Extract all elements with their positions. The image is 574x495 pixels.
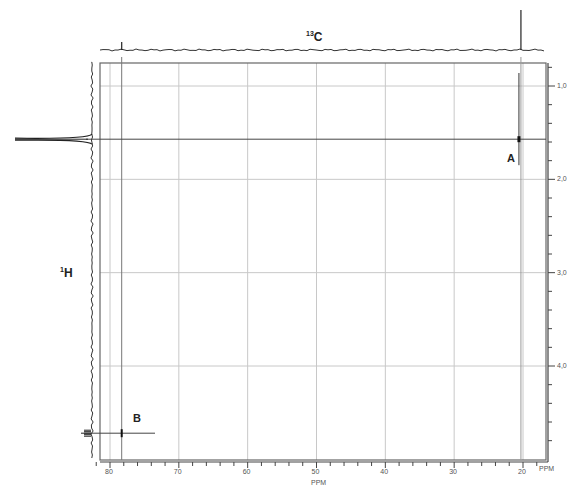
carbon-projection-label: 13C bbox=[306, 30, 322, 43]
x-tick-label: 80 bbox=[105, 468, 113, 475]
x-tick-label: 20 bbox=[518, 468, 526, 475]
carbon-symbol: C bbox=[314, 30, 323, 44]
y-tick-label: 1,0 bbox=[557, 82, 567, 89]
plot-frame bbox=[100, 63, 546, 460]
nmr-2d-plot bbox=[0, 0, 574, 495]
y-tick-label: 3,0 bbox=[557, 269, 567, 276]
proton-projection-label: 1H bbox=[60, 266, 73, 279]
peak-label-a: A bbox=[507, 153, 515, 164]
x-tick-label: 30 bbox=[449, 468, 457, 475]
x-axis-unit-right: PPM bbox=[539, 465, 554, 472]
y-tick-label: 4,0 bbox=[557, 362, 567, 369]
proton-1d-spectrum bbox=[91, 62, 93, 458]
x-axis-unit-center: PPM bbox=[311, 479, 326, 486]
carbon-isotope-number: 13 bbox=[306, 30, 314, 37]
y-tick-label: 2,0 bbox=[557, 175, 567, 182]
peak-label-b: B bbox=[133, 413, 141, 424]
x-tick-label: 40 bbox=[380, 468, 388, 475]
proton-symbol: H bbox=[64, 266, 73, 280]
x-tick-label: 50 bbox=[312, 468, 320, 475]
x-tick-label: 60 bbox=[243, 468, 251, 475]
carbon-1d-spectrum bbox=[100, 49, 544, 51]
x-tick-label: 70 bbox=[174, 468, 182, 475]
